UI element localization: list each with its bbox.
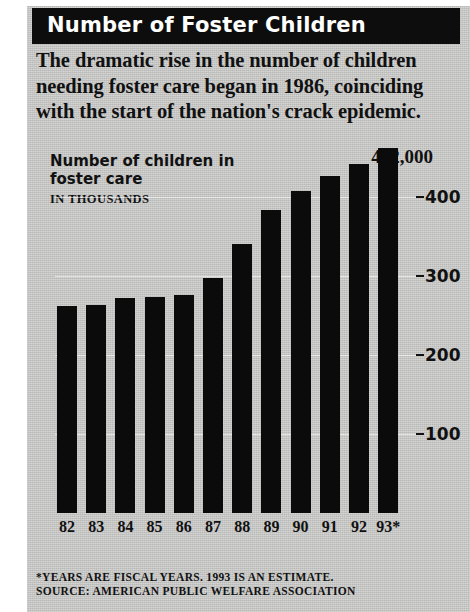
y-axis-tick-label: 200	[425, 345, 461, 365]
footnote-line-2: SOURCE: AMERICAN PUBLIC WELFARE ASSOCIAT…	[36, 584, 456, 598]
deck-text: The dramatic rise in the number of child…	[36, 48, 456, 125]
bar	[174, 295, 194, 513]
bar	[232, 244, 252, 513]
bar	[57, 306, 77, 513]
x-axis-label: 91	[315, 518, 345, 536]
y-axis-tick-mark	[416, 433, 424, 435]
bar	[291, 191, 311, 513]
bar	[320, 176, 340, 513]
x-axis-label: 90	[286, 518, 316, 536]
bar	[115, 298, 135, 513]
bar	[378, 148, 398, 513]
x-axis-label: 82	[52, 518, 82, 536]
x-axis-label: 83	[81, 518, 111, 536]
y-axis-tick-label: 100	[425, 424, 461, 444]
x-axis-label: 89	[256, 518, 286, 536]
y-axis-tick-mark	[416, 354, 424, 356]
bar-chart: Number of children in foster care IN THO…	[27, 140, 470, 540]
x-axis-label: 86	[169, 518, 199, 536]
bar	[203, 278, 223, 513]
footnote-line-1: *YEARS ARE FISCAL YEARS. 1993 IS AN ESTI…	[36, 570, 456, 584]
y-axis-tick-mark	[416, 275, 424, 277]
title-bar: Number of Foster Children	[32, 8, 460, 44]
page-title: Number of Foster Children	[47, 13, 366, 37]
x-axis-label: 85	[140, 518, 170, 536]
y-axis-tick-mark	[416, 196, 424, 198]
bar	[349, 164, 369, 513]
x-axis-label: 88	[227, 518, 257, 536]
bar	[145, 297, 165, 513]
bar	[86, 305, 106, 513]
bar	[261, 210, 281, 513]
plot-area: 100200300400828384858687888990919293*	[27, 140, 470, 540]
x-axis-label: 84	[110, 518, 140, 536]
chart-page: Number of Foster Children The dramatic r…	[0, 0, 470, 612]
x-axis-label: 92	[344, 518, 374, 536]
y-axis-tick-label: 300	[425, 266, 461, 286]
x-axis-label: 93*	[373, 518, 403, 536]
y-axis-tick-label: 400	[425, 187, 461, 207]
x-axis-label: 87	[198, 518, 228, 536]
footnote: *YEARS ARE FISCAL YEARS. 1993 IS AN ESTI…	[36, 570, 456, 598]
